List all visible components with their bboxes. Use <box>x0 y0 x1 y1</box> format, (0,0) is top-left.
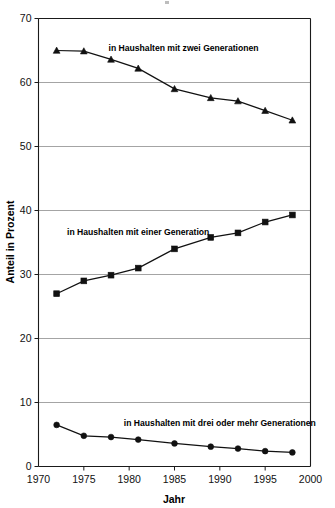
x-tick-label: 2000 <box>299 473 323 485</box>
y-tick-label: 40 <box>20 204 32 216</box>
x-tick-label: 1990 <box>208 473 232 485</box>
chart-background <box>0 0 335 508</box>
y-tick-label: 60 <box>20 76 32 88</box>
x-tick-label: 1970 <box>27 473 51 485</box>
series-label-2: in Haushalten mit einer Generation <box>67 227 209 237</box>
series-label-1: in Haushalten mit zwei Generationen <box>109 43 259 53</box>
marker-circle <box>172 441 178 447</box>
marker-square <box>135 265 141 271</box>
y-tick-label: 50 <box>20 140 32 152</box>
x-tick-label: 1975 <box>72 473 96 485</box>
y-tick-label: 0 <box>26 460 32 472</box>
marker-square <box>81 278 87 284</box>
line-chart: 010203040506070 197019751980198519901995… <box>0 0 335 508</box>
y-tick-label: 30 <box>20 268 32 280</box>
y-tick-label: 20 <box>20 332 32 344</box>
marker-circle <box>108 434 114 440</box>
marker-square <box>289 212 295 218</box>
marker-circle <box>208 444 214 450</box>
marker-circle <box>81 433 87 439</box>
marker-circle <box>235 446 241 452</box>
x-axis-title: Jahr <box>163 493 185 505</box>
y-tick-label: 70 <box>20 12 32 24</box>
marker-circle <box>54 422 60 428</box>
y-axis-title: Anteil in Prozent <box>4 200 16 283</box>
x-tick-label: 1995 <box>253 473 277 485</box>
marker-square <box>108 272 114 278</box>
marker-square <box>262 219 268 225</box>
series-label-3: in Haushalten mit drei oder mehr Generat… <box>124 418 316 428</box>
top-edge-artifact <box>165 1 169 4</box>
chart-canvas: 010203040506070 197019751980198519901995… <box>0 0 335 508</box>
marker-square <box>54 291 60 297</box>
marker-circle <box>289 450 295 456</box>
marker-square <box>235 230 241 236</box>
x-tick-label: 1980 <box>117 473 141 485</box>
marker-square <box>172 246 178 252</box>
x-tick-label: 1985 <box>163 473 187 485</box>
marker-circle <box>262 448 268 454</box>
y-tick-label: 10 <box>20 396 32 408</box>
marker-circle <box>135 437 141 443</box>
